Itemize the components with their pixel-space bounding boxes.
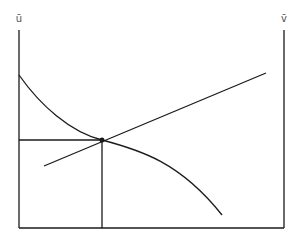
right-axis-label: v̄ — [281, 13, 287, 24]
decreasing-curve — [19, 75, 222, 215]
intersection-point — [100, 138, 105, 143]
left-axis-label: ū — [16, 13, 22, 24]
increasing-line — [44, 73, 266, 166]
equilibrium-diagram: ū v̄ — [0, 0, 299, 238]
